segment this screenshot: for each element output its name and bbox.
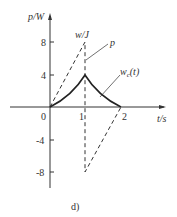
tick-1: 1 [79,111,84,122]
tick-2: 2 [122,111,127,122]
y-axis-arrow-icon [48,13,52,20]
w-label: w/J [75,29,89,40]
caption: d) [71,201,79,213]
tick-m4: -4 [36,135,44,146]
tick-4: 4 [41,70,46,81]
tick-0: 0 [41,111,46,122]
x-axis-arrow-icon [159,105,166,109]
y-label: p/W [27,11,46,22]
p-label: p [109,37,115,48]
chart: p/W t/s w/J p wc(t) 0 1 2 8 4 -4 -8 d) [0,0,177,217]
tick-m8: -8 [36,167,44,178]
wc-label: wc(t) [120,66,140,79]
x-label: t/s [157,113,167,124]
tick-8: 8 [41,37,46,48]
